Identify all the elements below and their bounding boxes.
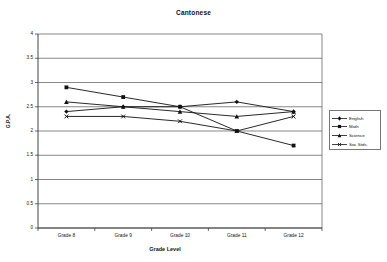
legend-item-science: Science bbox=[332, 131, 378, 140]
legend-marker-cross-icon bbox=[332, 141, 347, 148]
x-tick-label: Grade 8 bbox=[36, 233, 96, 238]
y-tick-label: 1 bbox=[15, 177, 33, 182]
gridlines bbox=[38, 34, 322, 228]
y-tick-label: 2 bbox=[15, 128, 33, 133]
legend-marker-triangle-icon bbox=[332, 132, 347, 139]
series-lines bbox=[64, 85, 296, 147]
legend-marker-square-icon bbox=[332, 123, 347, 130]
y-tick-label: 0 bbox=[15, 225, 33, 230]
y-tick-label: 0.5 bbox=[15, 201, 33, 206]
legend-marker-diamond-icon bbox=[332, 115, 347, 122]
legend-label: Soc Stds bbox=[349, 141, 367, 148]
chart-container: Cantonese 00.511.522.533.54 Grade 8Grade… bbox=[0, 0, 387, 262]
legend-item-math: Math bbox=[332, 123, 378, 132]
y-tick-label: 3.5 bbox=[15, 55, 33, 60]
y-tick-label: 4 bbox=[15, 31, 33, 36]
y-axis-title: G.P.A. bbox=[5, 101, 11, 141]
x-tick-label: Grade 11 bbox=[207, 233, 267, 238]
y-tick-label: 3 bbox=[15, 80, 33, 85]
legend-label: English bbox=[349, 115, 363, 122]
y-tick-label: 1.5 bbox=[15, 152, 33, 157]
legend-label: Math bbox=[349, 123, 359, 130]
y-tick-label: 2.5 bbox=[15, 104, 33, 109]
x-tick-label: Grade 10 bbox=[150, 233, 210, 238]
chart-legend: English Math Science Soc Stds bbox=[329, 110, 381, 150]
legend-label: Science bbox=[349, 132, 365, 139]
x-tick-label: Grade 12 bbox=[264, 233, 324, 238]
legend-item-english: English bbox=[332, 114, 378, 123]
legend-item-soc-stds: Soc Stds bbox=[332, 140, 378, 149]
x-tick-label: Grade 9 bbox=[93, 233, 153, 238]
x-axis-title: Grade Level bbox=[0, 246, 330, 252]
